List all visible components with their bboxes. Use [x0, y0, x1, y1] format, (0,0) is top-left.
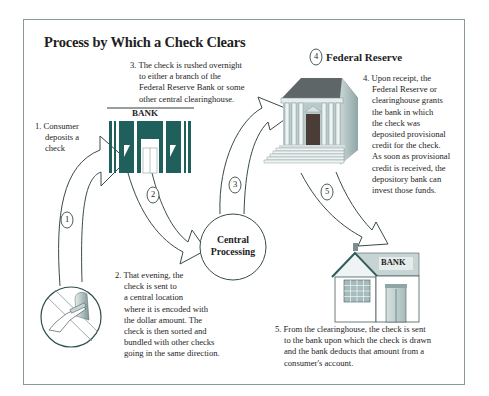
federal-reserve-heading: Federal Reserve	[326, 51, 402, 63]
arrow-1	[59, 136, 127, 286]
badge-4-label: 4	[309, 51, 323, 61]
step-4-text: 4. Upon receipt, the Federal Reserve or …	[363, 73, 450, 196]
badge-2-label: 2	[146, 189, 160, 199]
bank-house-icon	[332, 243, 419, 322]
step-3-text: 3. The check is rushed overnight to eith…	[130, 60, 244, 105]
atm-deposit-hand-icon	[41, 287, 101, 347]
step-5-text: 5. From the clearinghouse, the check is …	[275, 324, 431, 369]
federal-reserve-building-icon	[264, 78, 358, 165]
step-1-text: 1. Consumer deposits a check	[35, 121, 79, 155]
depositing-bank-sign: BANK	[132, 108, 158, 118]
badge-3-label: 3	[228, 179, 242, 189]
step-2-text: 2. That evening, the check is sent to a …	[115, 270, 220, 360]
badge-1-label: 1	[60, 214, 74, 224]
central-processing-label: Central Processing	[200, 234, 266, 258]
drawee-bank-sign: BANK	[381, 257, 406, 267]
badge-5-label: 5	[320, 186, 334, 196]
arrow-2	[128, 173, 206, 264]
